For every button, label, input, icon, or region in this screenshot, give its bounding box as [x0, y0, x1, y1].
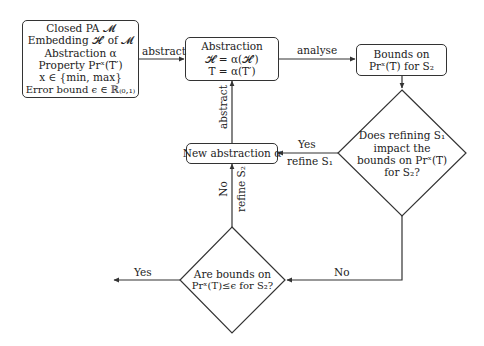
bounds-box: Bounds on Prˣ(T) for S₂ — [356, 44, 447, 76]
bounds-line: Prˣ(T) for S₂ — [369, 60, 434, 72]
label-refine-yes: Yes — [298, 138, 316, 150]
decision-refine-line: bounds on Prˣ(T) — [357, 154, 447, 166]
decision-error-text: Are bounds on Prˣ(T)≤ϵ for S₂? — [182, 266, 283, 294]
inputs-line: Embedding 𝓗′ of 𝓜 — [28, 34, 133, 46]
label-refine-no: No — [334, 266, 350, 278]
decision-error-line: Are bounds on — [194, 268, 271, 280]
inputs-line: Property Prˣ(T′) — [39, 59, 123, 71]
abstraction-line: Abstraction — [201, 40, 263, 52]
decision-error-line: Prˣ(T)≤ϵ for S₂? — [192, 280, 273, 292]
inputs-line: Abstraction α — [44, 47, 116, 59]
label-error-yes: Yes — [134, 266, 152, 278]
inputs-line: Error bound ϵ ∈ ℝ₍₀,₁₎ — [26, 84, 136, 96]
label-refine-s1: refine S₁ — [287, 155, 333, 167]
label-abstract: abstract — [142, 45, 186, 57]
new-abstraction-box: New abstraction α — [186, 143, 278, 164]
inputs-line: Closed PA 𝓜 — [46, 22, 114, 34]
label-refine-s2: refine S₂ — [235, 164, 247, 214]
abstraction-line: T = α(T′) — [208, 65, 255, 77]
decision-refine-line: for S₂? — [384, 166, 420, 178]
new-abstraction-label: New abstraction α — [183, 147, 282, 159]
label-error-no: No — [217, 179, 229, 199]
inputs-line: x ∈ {min, max} — [39, 71, 122, 83]
decision-refine-text: Does refining S₁ impact the bounds on Pr… — [346, 128, 458, 180]
label-analyse: analyse — [297, 44, 337, 56]
inputs-box: Closed PA 𝓜 Embedding 𝓗′ of 𝓜 Abstractio… — [22, 20, 139, 98]
bounds-line: Bounds on — [373, 48, 429, 60]
abstraction-line: 𝓗 = α(𝓗′) — [205, 53, 258, 65]
label-abstract-vertical: abstract — [217, 87, 229, 129]
abstraction-box: Abstraction 𝓗 = α(𝓗′) T = α(T′) — [185, 37, 279, 81]
decision-refine-line: impact the — [374, 142, 431, 154]
decision-refine-line: Does refining S₁ — [359, 129, 445, 141]
